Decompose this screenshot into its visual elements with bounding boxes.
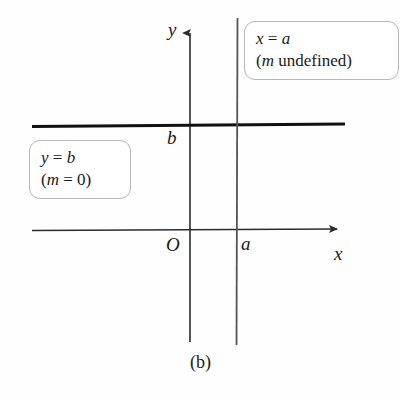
callout-x-line-1: x = a bbox=[256, 28, 388, 50]
x-intercept-label-a: a bbox=[241, 234, 251, 253]
callout-x-line-2: (m undefined) bbox=[256, 50, 388, 72]
callout-y-line-1: y = b bbox=[41, 147, 120, 169]
y-axis-label: y bbox=[168, 20, 176, 39]
callout-y-variable: y bbox=[41, 148, 49, 167]
callout-x-operator: = bbox=[264, 29, 282, 48]
line-x-equals-a bbox=[237, 18, 238, 345]
callout-y-value: b bbox=[67, 148, 76, 167]
x-axis bbox=[32, 229, 337, 231]
callout-y-line-2: (m = 0) bbox=[41, 169, 120, 191]
callout-x-slope-text: undefined) bbox=[274, 51, 352, 70]
callout-y-operator: = bbox=[49, 148, 67, 167]
callout-x-value: a bbox=[282, 29, 291, 48]
callout-x-equals-a: x = a (m undefined) bbox=[244, 21, 399, 80]
callout-y-slope-text: = 0) bbox=[59, 170, 91, 189]
x-axis-label: x bbox=[334, 244, 342, 263]
line-y-equals-b bbox=[32, 124, 345, 127]
origin-label: O bbox=[166, 235, 180, 254]
callout-y-equals-b: y = b (m = 0) bbox=[29, 140, 131, 199]
callout-x-slope-symbol: m bbox=[262, 51, 274, 70]
coordinate-plane-figure: y b O a x x = a (m undefined) y = b (m =… bbox=[0, 0, 401, 399]
callout-y-slope-symbol: m bbox=[47, 170, 59, 189]
callout-x-variable: x bbox=[256, 29, 264, 48]
y-intercept-label-b: b bbox=[167, 128, 177, 147]
figure-caption: (b) bbox=[0, 352, 401, 373]
